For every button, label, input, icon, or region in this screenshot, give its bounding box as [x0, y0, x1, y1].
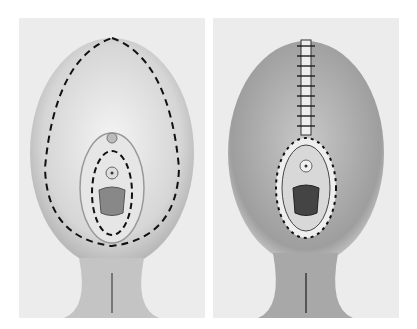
preop-drawing [19, 18, 205, 318]
right-illustration-panel [213, 18, 399, 318]
left-illustration-panel [19, 18, 205, 318]
postop-drawing [213, 18, 399, 318]
